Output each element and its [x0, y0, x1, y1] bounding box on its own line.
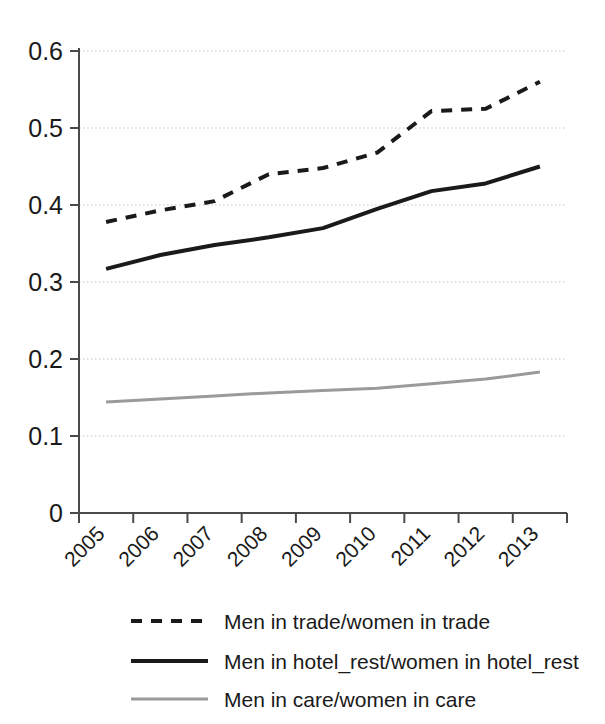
x-tick-label: 2006 — [114, 522, 163, 571]
x-axis-ticks: 200520062007200820092010201120122013 — [60, 513, 567, 571]
y-tick-label: 0.6 — [28, 37, 63, 65]
legend-label-0: Men in trade/women in trade — [224, 610, 490, 633]
series-line-0 — [106, 82, 540, 222]
y-tick-label: 0.3 — [28, 268, 63, 296]
x-tick-label: 2012 — [439, 522, 488, 571]
y-tick-label: 0.2 — [28, 345, 63, 373]
series-line-1 — [106, 167, 540, 269]
x-tick-label: 2007 — [168, 522, 217, 571]
y-tick-label: 0.5 — [28, 114, 63, 142]
data-series-group — [106, 82, 540, 402]
x-tick-label: 2010 — [331, 522, 380, 571]
y-tick-label: 0 — [49, 499, 63, 527]
x-tick-label: 2005 — [60, 522, 109, 571]
chart-legend: Men in trade/women in tradeMen in hotel_… — [131, 610, 579, 711]
chart-figure: 0.60.50.40.30.20.10 20052006200720082009… — [0, 0, 605, 724]
line-chart-svg: 0.60.50.40.30.20.10 20052006200720082009… — [0, 0, 605, 724]
legend-label-2: Men in care/women in care — [224, 688, 476, 711]
y-axis-ticks: 0.60.50.40.30.20.10 — [28, 37, 79, 527]
axis-lines — [79, 48, 567, 513]
series-line-2 — [106, 372, 540, 402]
x-tick-label: 2008 — [222, 522, 271, 571]
legend-label-1: Men in hotel_rest/women in hotel_rest — [224, 650, 579, 674]
x-tick-label: 2011 — [386, 522, 434, 570]
x-tick-label: 2013 — [493, 522, 542, 571]
y-tick-label: 0.4 — [28, 191, 63, 219]
y-tick-label: 0.1 — [28, 422, 63, 450]
x-tick-label: 2009 — [277, 522, 326, 571]
